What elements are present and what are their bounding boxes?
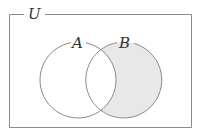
set-b-label: B: [118, 34, 130, 52]
universe-label: U: [28, 5, 42, 23]
venn-diagram: U A B: [0, 0, 198, 130]
set-a-label: A: [70, 34, 83, 52]
